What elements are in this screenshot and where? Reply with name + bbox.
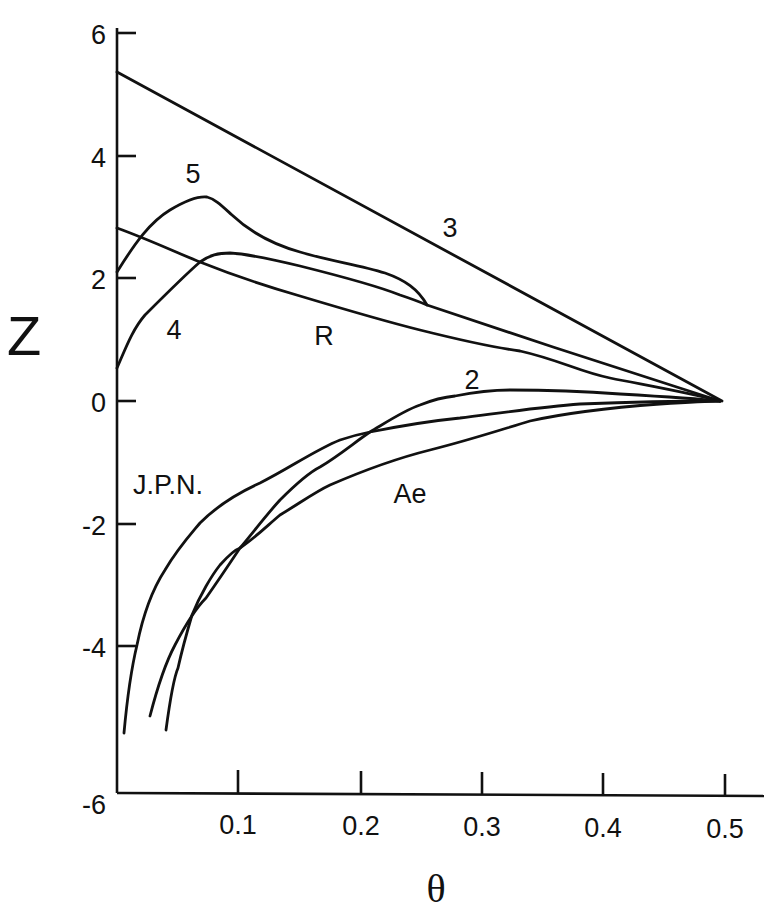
x-axis-title: θ [426, 866, 445, 910]
y-axis-title: Z [7, 304, 41, 367]
y-tick-label: 0 [91, 388, 106, 418]
curve-R [117, 228, 720, 401]
curve-5 [117, 197, 720, 401]
y-tick-label: -2 [82, 511, 106, 541]
x-tick-label: 0.5 [706, 814, 744, 844]
curve-3 [117, 72, 722, 401]
y-tick-label: -6 [82, 790, 106, 820]
chart-canvas: 6 4 2 0 -2 -4 -6 0.1 0.2 0.3 0.4 0.5 Z θ… [0, 0, 770, 910]
curve-Ae [166, 401, 720, 730]
series-label-3: 3 [442, 213, 457, 243]
curve-2 [150, 390, 720, 716]
x-tick-label: 0.1 [219, 810, 257, 840]
x-axis [117, 793, 764, 796]
y-tick-label: 4 [91, 143, 106, 173]
x-tick-label: 0.3 [463, 812, 501, 842]
series-label-JPN: J.P.N. [133, 470, 203, 500]
x-tick-labels: 0.1 0.2 0.3 0.4 0.5 [219, 810, 744, 844]
y-tick-label: 2 [91, 265, 106, 295]
curves [117, 72, 722, 733]
x-tick-label: 0.4 [584, 813, 622, 843]
y-tick-labels: 6 4 2 0 -2 -4 -6 [82, 20, 106, 820]
series-label-2: 2 [464, 365, 479, 395]
y-tick-label: 6 [91, 20, 106, 50]
y-tick-label: -4 [82, 633, 106, 663]
series-label-5: 5 [185, 159, 200, 189]
series-label-4: 4 [166, 315, 181, 345]
x-ticks [238, 770, 725, 796]
series-label-Ae: Ae [393, 479, 426, 509]
x-tick-label: 0.2 [342, 811, 380, 841]
series-label-R: R [314, 321, 334, 351]
y-ticks [117, 33, 136, 646]
